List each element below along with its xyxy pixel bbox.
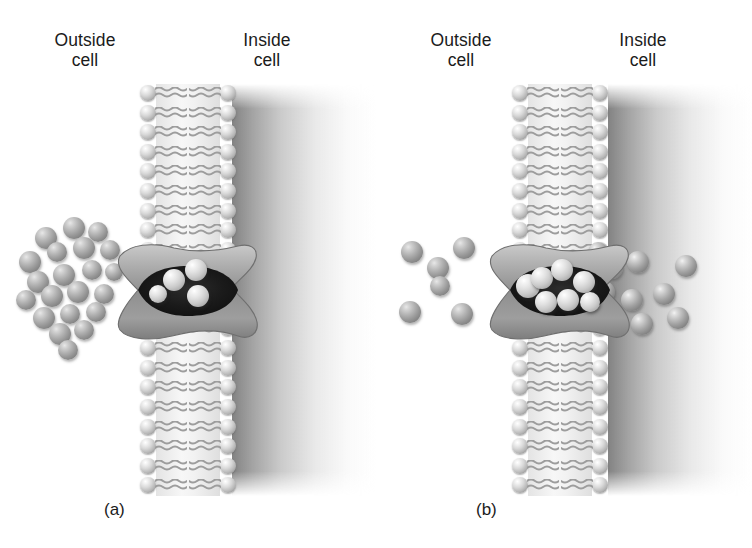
lipid-tails	[561, 205, 593, 218]
lipid-tails	[527, 165, 559, 178]
transport-protein-b	[484, 240, 634, 344]
lipid-tails	[561, 362, 593, 375]
solute-molecule	[580, 292, 600, 312]
solute-molecule	[451, 303, 473, 325]
solute-molecule	[531, 267, 553, 289]
lipid-head	[140, 458, 156, 474]
solute-molecule	[63, 217, 85, 239]
solutes-in-channel-b	[484, 240, 634, 344]
solute-molecule	[551, 259, 573, 281]
panel-a: Outside cell Inside cell	[0, 0, 376, 548]
phospholipid	[560, 202, 608, 221]
solute-molecule	[73, 237, 95, 259]
phospholipid	[560, 182, 608, 201]
phospholipid	[512, 202, 560, 221]
solute-molecule	[82, 260, 102, 280]
lipid-tails	[155, 205, 187, 218]
solute-molecule	[58, 340, 78, 360]
lipid-tails	[155, 401, 187, 414]
lipid-tails	[155, 460, 187, 473]
solute-molecule	[187, 285, 209, 307]
lipid-head	[592, 85, 608, 101]
lipid-head	[140, 419, 156, 435]
lipid-tails	[155, 362, 187, 375]
lipid-head	[220, 85, 236, 101]
solute-molecule	[19, 251, 41, 273]
lipid-tails	[561, 146, 593, 159]
phospholipid	[140, 104, 188, 123]
phospholipid	[560, 457, 608, 476]
phospholipid	[512, 418, 560, 437]
phospholipid	[560, 221, 608, 240]
solutes-in-channel-a	[112, 240, 262, 344]
phospholipid	[188, 182, 236, 201]
lipid-head	[140, 399, 156, 415]
phospholipid	[140, 143, 188, 162]
lipid-head	[512, 360, 528, 376]
lipid-tails	[189, 185, 221, 198]
lipid-head	[220, 222, 236, 238]
lipid-tails	[527, 146, 559, 159]
solute-molecule	[47, 242, 67, 262]
phospholipid	[140, 182, 188, 201]
lipid-tails	[155, 146, 187, 159]
lipid-tails	[189, 87, 221, 100]
lipid-head	[140, 105, 156, 121]
phospholipid	[140, 457, 188, 476]
lipid-head	[512, 379, 528, 395]
lipid-tails	[527, 421, 559, 434]
lipid-tails	[561, 401, 593, 414]
lipid-tails	[155, 126, 187, 139]
lipid-tails	[189, 205, 221, 218]
lipid-tails	[561, 107, 593, 120]
phospholipid	[560, 437, 608, 456]
phospholipid	[140, 437, 188, 456]
lipid-tails	[561, 87, 593, 100]
lipid-head	[592, 477, 608, 493]
panel-caption-a: (a)	[104, 500, 125, 520]
phospholipid	[188, 221, 236, 240]
lipid-tails	[527, 185, 559, 198]
label-inside-cell-b: Inside cell	[572, 30, 714, 70]
phospholipid	[188, 437, 236, 456]
lipid-tails	[155, 107, 187, 120]
solute-molecule	[41, 285, 63, 307]
lipid-tails	[155, 440, 187, 453]
phospholipid	[560, 104, 608, 123]
lipid-head	[512, 183, 528, 199]
phospholipid	[188, 457, 236, 476]
lipid-head	[220, 105, 236, 121]
solute-molecule	[185, 259, 207, 281]
lipid-tails	[155, 421, 187, 434]
lipid-head	[220, 458, 236, 474]
lipid-tails	[561, 421, 593, 434]
lipid-head	[512, 203, 528, 219]
lipid-tails	[189, 460, 221, 473]
lipid-tails	[561, 185, 593, 198]
phospholipid	[560, 418, 608, 437]
lipid-tails	[527, 479, 559, 492]
phospholipid	[560, 84, 608, 103]
lipid-head	[592, 144, 608, 160]
solute-molecule	[667, 307, 689, 329]
lipid-tails	[189, 421, 221, 434]
lipid-head	[220, 399, 236, 415]
lipid-head	[512, 85, 528, 101]
phospholipid	[560, 398, 608, 417]
phospholipid	[512, 162, 560, 181]
lipid-tails	[561, 126, 593, 139]
lipid-head	[592, 124, 608, 140]
label-outside-cell-a: Outside cell	[14, 30, 156, 70]
phospholipid	[188, 202, 236, 221]
phospholipid	[140, 398, 188, 417]
lipid-tails	[155, 165, 187, 178]
panel-caption-b: (b)	[476, 500, 497, 520]
phospholipid	[140, 221, 188, 240]
phospholipid	[560, 359, 608, 378]
phospholipid	[512, 143, 560, 162]
lipid-head	[220, 163, 236, 179]
lipid-head	[220, 419, 236, 435]
solute-molecule	[430, 276, 450, 296]
phospholipid	[560, 476, 608, 495]
label-outside-cell-b: Outside cell	[390, 30, 532, 70]
